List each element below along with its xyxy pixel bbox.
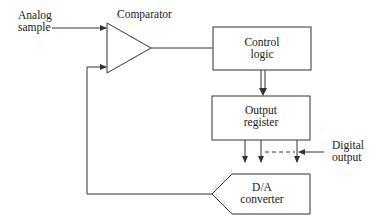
dac-label-line2: converter [240,193,284,205]
diagram-canvas: Analog sample Comparator Control logic O… [0,0,376,219]
output-register-label-line2: register [244,116,279,129]
comparator-label: Comparator [117,8,172,21]
digital-output-label-line2: output [332,151,362,164]
analog-sample-label-line2: sample [18,21,51,34]
feedback-line [87,67,212,194]
control-logic-label-line1: Control [244,36,279,48]
control-logic-label-line2: logic [251,48,274,61]
control-to-register-double-arrow [259,70,267,96]
comparator-triangle [107,23,151,73]
dac-label-line1: D/A [252,181,273,193]
